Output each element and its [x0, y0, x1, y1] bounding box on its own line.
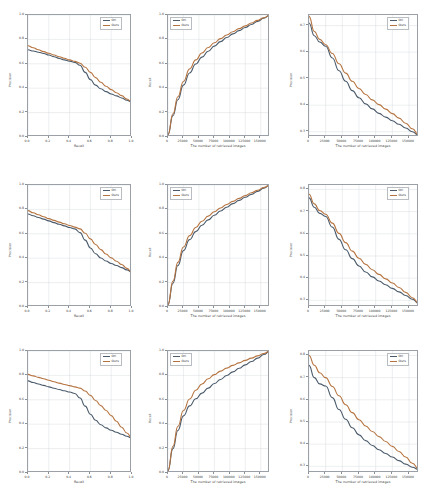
legend-swatch-ours [173, 361, 180, 362]
y-tickmark [25, 233, 27, 234]
y-tickmark [25, 399, 27, 400]
plot-panel-r1c3: 0.30.40.50.60.70250005000075000100000125… [280, 0, 431, 168]
legend-item-ori: Ori [390, 189, 406, 192]
y-tick-label: 0.3 [292, 297, 305, 301]
series-line-ours [309, 194, 418, 303]
legend-swatch-ours [173, 25, 180, 26]
series-line-ours [168, 15, 269, 135]
x-tick-label: 150000 [397, 309, 419, 313]
legend-item-ours: Ours [173, 194, 189, 197]
legend-item-ours: Ours [103, 194, 119, 197]
y-tick-label: 0.5 [292, 76, 305, 80]
y-tick-label: 0.5 [292, 419, 305, 423]
y-tick-label: 0.8 [11, 372, 24, 376]
plot-canvas-r1c1 [28, 15, 131, 136]
y-tickmark [165, 14, 167, 15]
y-tickmark [25, 111, 27, 112]
y-tickmark [165, 281, 167, 282]
series-line-ours [309, 16, 418, 135]
y-tick-label: 0.6 [11, 61, 24, 65]
y-tick-label: 0.6 [292, 231, 305, 235]
x-tick-label: 0.4 [58, 139, 80, 143]
plot-canvas-r3c3 [309, 351, 418, 472]
legend-label: Ours [399, 24, 406, 27]
legend-item-ori: Ori [103, 355, 119, 358]
y-tick-label: 0.0 [11, 304, 24, 308]
legend-swatch-ours [103, 25, 110, 26]
figure-grid: 0.00.20.40.60.81.00.00.20.40.60.81.0Reca… [0, 0, 431, 503]
y-tick-label: 0.8 [151, 206, 164, 210]
y-tick-label: 0.3 [292, 463, 305, 467]
plot-panel-r2c3: 0.30.40.50.60.70.80250005000075000100000… [280, 168, 431, 338]
legend-label: Ours [399, 360, 406, 363]
legend-swatch-ours [103, 195, 110, 196]
y-tick-label: 0.2 [11, 110, 24, 114]
y-tick-label: 0.0 [11, 470, 24, 474]
y-axis-label: Precision [8, 243, 12, 257]
y-tick-label: 0.4 [292, 102, 305, 106]
plot-canvas-r3c2 [168, 351, 269, 472]
y-tick-label: 0.4 [151, 421, 164, 425]
y-axis-label: Precision [289, 409, 293, 423]
y-tick-label: 1.0 [151, 348, 164, 352]
legend: OriOurs [100, 353, 122, 366]
x-tick-label: 1.0 [120, 475, 142, 479]
legend-swatch-ours [173, 195, 180, 196]
x-axis-label: The number of retrieved images [167, 314, 269, 318]
y-tickmark [306, 354, 308, 355]
y-axis-label: Recall [148, 247, 152, 257]
x-tick-label: 150000 [249, 139, 271, 143]
series-line-ours [168, 185, 269, 305]
plot-panel-r1c2: 0.00.20.40.60.81.00250005000075000100000… [143, 0, 280, 168]
x-tick-label: 0.8 [99, 139, 121, 143]
y-tick-label: 0.8 [292, 186, 305, 190]
y-tick-label: 0.4 [151, 85, 164, 89]
y-tickmark [165, 63, 167, 64]
legend-label: Ori [112, 189, 117, 192]
legend-item-ori: Ori [173, 19, 189, 22]
plot-area-r1c2 [167, 14, 269, 136]
y-tick-label: 0.7 [292, 23, 305, 27]
y-tick-label: 0.2 [151, 280, 164, 284]
y-tickmark [25, 257, 27, 258]
y-tickmark [306, 104, 308, 105]
y-tickmark [25, 447, 27, 448]
x-tick-label: 0.6 [78, 309, 100, 313]
y-tick-label: 0.6 [11, 397, 24, 401]
y-tick-label: 0.7 [292, 375, 305, 379]
y-tickmark [306, 130, 308, 131]
y-tick-label: 0.2 [151, 110, 164, 114]
y-tickmark [25, 350, 27, 351]
plot-canvas-r2c2 [168, 185, 269, 306]
x-tick-label: 1.0 [120, 139, 142, 143]
series-line-ori [168, 185, 269, 305]
legend: OriOurs [170, 187, 192, 200]
y-tick-label: 0.4 [151, 255, 164, 259]
y-axis-label: Recall [148, 413, 152, 423]
x-axis-label: Recall [27, 480, 131, 484]
legend: OriOurs [170, 353, 192, 366]
plot-panel-r1c1: 0.00.20.40.60.81.00.00.20.40.60.81.0Reca… [0, 0, 143, 168]
series-line-ori [28, 214, 131, 272]
legend-label: Ori [399, 19, 404, 22]
y-tick-label: 0.4 [292, 275, 305, 279]
plot-area-r3c1 [27, 350, 131, 472]
y-tick-label: 0.4 [292, 441, 305, 445]
series-line-ours [309, 355, 418, 469]
x-tick-label: 0.8 [99, 475, 121, 479]
x-tick-label: 150000 [249, 309, 271, 313]
series-line-ori [28, 50, 131, 102]
y-tick-label: 0.5 [292, 253, 305, 257]
y-tick-label: 0.2 [151, 446, 164, 450]
y-tick-label: 0.6 [151, 61, 164, 65]
y-tickmark [165, 87, 167, 88]
y-tickmark [165, 184, 167, 185]
plot-canvas-r2c1 [28, 185, 131, 306]
y-tick-label: 1.0 [11, 12, 24, 16]
y-tick-label: 0.4 [11, 421, 24, 425]
legend-item-ours: Ours [173, 360, 189, 363]
y-tick-label: 0.6 [151, 397, 164, 401]
y-tick-label: 0.8 [292, 352, 305, 356]
x-tick-label: 0.4 [58, 309, 80, 313]
x-axis-label: Recall [27, 314, 131, 318]
